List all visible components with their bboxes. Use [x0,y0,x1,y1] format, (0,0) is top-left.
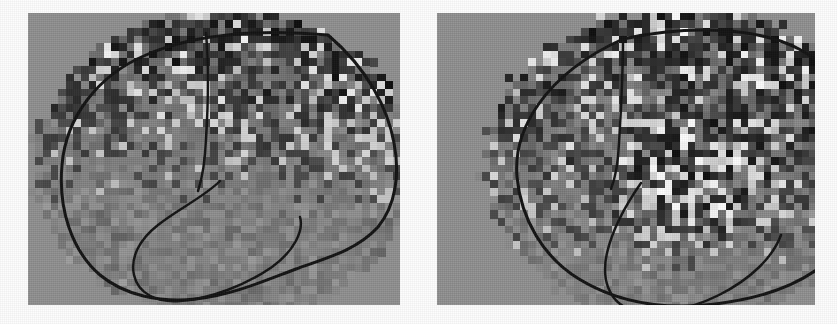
right-brain-map-panel [437,13,815,305]
left-brain-map-panel [28,13,400,305]
right-brain-scan-image [437,13,815,305]
figure-root [0,0,837,324]
left-brain-scan-image [28,13,400,305]
